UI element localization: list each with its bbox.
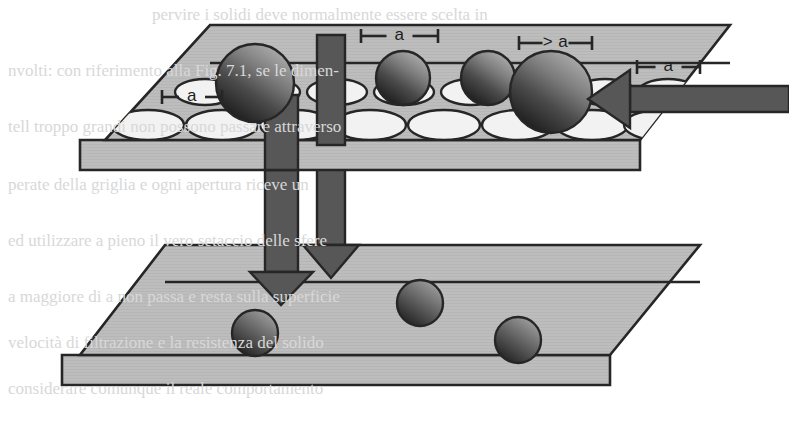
bleed-text: ed utilizzare a pieno il vero setaccio d…	[8, 231, 327, 250]
label-gt-a: > a	[542, 33, 570, 50]
bleed-text: velocità di filtrazione e la resistenza …	[8, 333, 324, 352]
label-top-a: a	[386, 26, 414, 43]
bleed-text: a maggiore di a non passa e resta sulla …	[8, 287, 340, 306]
bleed-text: tell troppo grandi non possono passare a…	[8, 117, 341, 136]
label-right-a: a	[655, 57, 683, 74]
bleed-text: pervire i solidi deve normalmente essere…	[152, 5, 488, 24]
bleed-text: considerare comunque il reale comportame…	[8, 379, 323, 398]
figure-canvas: pervire i solidi deve normalmente essere…	[0, 0, 789, 427]
bleed-text: nvolti: con riferimento alla Fig. 7.1, s…	[8, 61, 339, 80]
bleed-text: perate della griglia e ogni apertura ric…	[8, 175, 309, 194]
label-left-a: a	[178, 87, 206, 104]
